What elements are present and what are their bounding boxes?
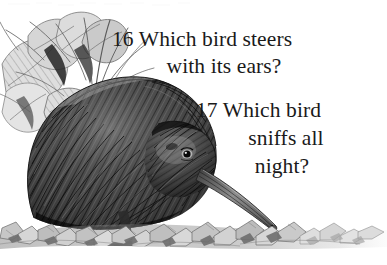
question-17-line2: sniffs all bbox=[196, 124, 380, 152]
question-17: 17 Which bird sniffs all night? bbox=[196, 96, 380, 180]
scanned-page: 16 Which bird steers with its ears? 17 W… bbox=[0, 0, 387, 265]
question-16-line1: 16 Which bird steers bbox=[112, 27, 292, 51]
question-17-line3: night? bbox=[196, 152, 380, 180]
question-16: 16 Which bird steers with its ears? bbox=[112, 26, 380, 80]
question-16-line2: with its ears? bbox=[112, 53, 380, 80]
question-17-line1: 17 Which bird bbox=[196, 98, 321, 122]
